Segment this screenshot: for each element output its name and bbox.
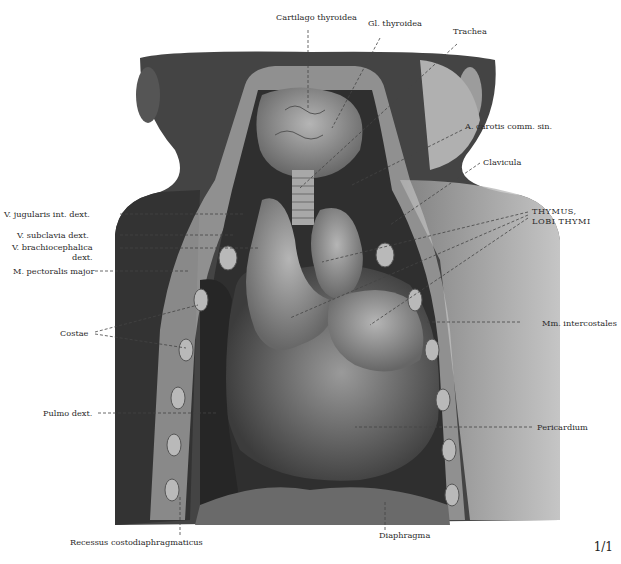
label-recessus: Recessus costodiaphragmaticus [70, 537, 203, 547]
label-v-brachiocephalica: V. brachiocephalica dext. [12, 242, 93, 262]
label-pulmo-dext: Pulmo dext. [43, 408, 92, 418]
thorax-illustration [0, 0, 621, 564]
label-trachea: Trachea [453, 26, 487, 36]
label-gl-thyroidea: Gl. thyroidea [368, 18, 422, 28]
label-v-brachio-line1: V. brachiocephalica [12, 242, 93, 252]
label-v-jugularis: V. jugularis int. dext. [4, 209, 90, 219]
label-thymus-line2: LOBI THYMI [532, 216, 591, 226]
label-diaphragma: Diaphragma [379, 530, 430, 540]
page-number: 1/1 [594, 540, 613, 554]
label-thymus-line1: THYMUS, [532, 206, 591, 216]
label-costae: Costae [60, 328, 88, 338]
anatomical-plate: Cartilago thyroidea Gl. thyroidea Trache… [0, 0, 621, 564]
label-m-pectoralis: M. pectoralis major [13, 266, 94, 276]
label-clavicula: Clavicula [483, 157, 521, 167]
label-thymus: THYMUS, LOBI THYMI [532, 206, 591, 226]
label-pericardium: Pericardium [537, 422, 588, 432]
label-a-carotis: A. carotis comm. sin. [465, 121, 552, 131]
label-v-subclavia: V. subclavia dext. [17, 230, 89, 240]
label-mm-intercostales: Mm. intercostales [542, 318, 617, 328]
label-cartilago-thyroidea: Cartilago thyroidea [276, 12, 357, 22]
label-v-brachio-line2: dext. [12, 252, 93, 262]
